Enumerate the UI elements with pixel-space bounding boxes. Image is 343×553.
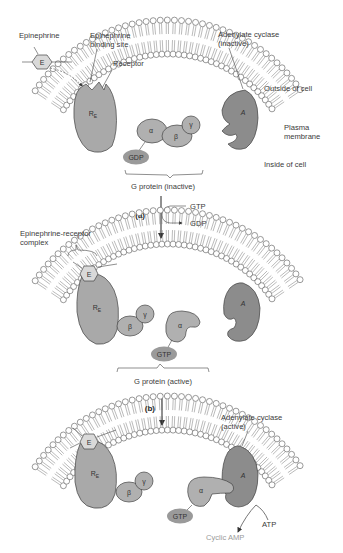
label-receptor: Receptor: [113, 59, 144, 68]
label-inside-cell: Inside of cell: [264, 160, 307, 169]
label-binding-site-2: binding site: [90, 40, 128, 49]
gtp-glyph: GTP: [157, 351, 172, 358]
adenylate-glyph: A: [240, 300, 246, 307]
g-protein-brace: [125, 170, 203, 178]
adenylate-cyclase-inactive: [222, 90, 258, 149]
step-a-gtp: GTP: [190, 202, 206, 211]
g-protein-diagram: E Epinephrine Epinephrine binding site R…: [0, 0, 343, 553]
label-adenylate-inactive-1: Adenylate cyclase: [218, 30, 279, 39]
alpha-glyph: α: [178, 322, 182, 329]
beta-glyph: β: [127, 489, 131, 497]
adenylate-glyph: A: [240, 472, 246, 479]
complex-brace: [68, 245, 97, 256]
label-g-protein-active: G protein (active): [134, 377, 193, 386]
label-adenylate-inactive-2: (inactive): [218, 39, 249, 48]
beta-glyph: β: [174, 133, 178, 141]
g-protein-brace: [117, 364, 209, 372]
label-epinephrine: Epinephrine: [19, 31, 60, 40]
label-complex-2: complex: [20, 238, 48, 247]
gtp-glyph: GTP: [173, 513, 188, 520]
g-alpha-subunit: [166, 311, 200, 342]
label-atp: ATP: [262, 520, 276, 529]
epinephrine-glyph: E: [87, 271, 92, 278]
panel-1: E Epinephrine Epinephrine binding site R…: [19, 17, 320, 191]
plasma-membrane: [32, 207, 303, 303]
epinephrine-glyph: E: [40, 59, 45, 66]
plasma-membrane: [32, 393, 303, 489]
label-cyclic-amp: Cyclic AMP: [206, 533, 244, 542]
adenylate-glyph: A: [240, 109, 246, 116]
gdp-glyph: GDP: [128, 154, 144, 161]
panel-3: RE E β γ A α GTP Adenylate cyclase (acti…: [32, 393, 303, 542]
beta-glyph: β: [128, 323, 132, 331]
label-adenylate-active-1: Adenylate cyclase: [221, 413, 282, 422]
label-outside-cell: Outside of cell: [264, 84, 312, 93]
gamma-glyph: γ: [143, 311, 147, 319]
alpha-glyph: α: [149, 127, 153, 134]
panel-2: Epinephrine-receptor complex RE E β γ α …: [20, 207, 303, 386]
label-plasma-2: membrane: [284, 132, 320, 141]
epinephrine-glyph: E: [87, 439, 92, 446]
alpha-glyph: α: [199, 487, 203, 494]
gamma-glyph: γ: [142, 478, 146, 486]
label-complex-1: Epinephrine-receptor: [20, 229, 91, 238]
label-g-protein-inactive: G protein (inactive): [131, 182, 196, 191]
label-plasma-1: Plasma: [284, 123, 310, 132]
label-adenylate-active-2: (active): [221, 422, 246, 431]
g-alpha-subunit: [188, 477, 234, 506]
adenylate-cyclase-inactive: [224, 283, 260, 341]
label-binding-site-1: Epinephrine: [90, 31, 131, 40]
gamma-glyph: γ: [189, 121, 193, 129]
